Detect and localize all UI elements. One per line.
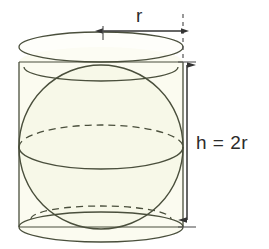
cylinder-top-ellipse [19,32,183,62]
radius-label: r [136,6,143,25]
sphere-fill [19,65,183,229]
cylinder-sphere-diagram [0,0,269,249]
geometry-figure: r h = 2r [0,0,269,249]
height-label: h = 2r [196,133,248,152]
